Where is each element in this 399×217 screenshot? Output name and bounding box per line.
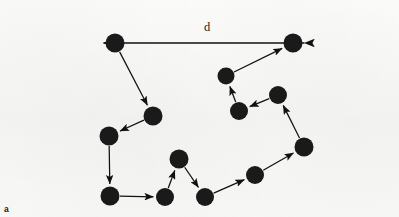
edge-n5-to-n4 bbox=[250, 99, 269, 107]
edge-n11-to-n10 bbox=[120, 196, 153, 197]
node-n13 bbox=[144, 107, 163, 126]
edge-n8-to-n7 bbox=[214, 180, 245, 194]
edge-n9-to-n8 bbox=[185, 167, 199, 187]
edge-n6-to-n5 bbox=[283, 105, 299, 138]
edge-n4-to-n3 bbox=[230, 86, 236, 102]
node-n9 bbox=[170, 150, 189, 169]
distance-label-d: d bbox=[204, 21, 210, 34]
node-n8 bbox=[196, 188, 214, 206]
node-n5 bbox=[269, 86, 287, 104]
node-n2 bbox=[284, 34, 303, 53]
levy-flight-diagram bbox=[0, 0, 399, 217]
node-n10 bbox=[156, 188, 174, 206]
node-n7 bbox=[246, 166, 264, 184]
nodes-layer bbox=[100, 34, 314, 207]
figure-panel: d a bbox=[0, 0, 399, 217]
edge-n3-to-n2 bbox=[234, 48, 282, 72]
node-n1 bbox=[106, 34, 125, 53]
edges-layer bbox=[109, 48, 299, 196]
edge-n10-to-n9 bbox=[168, 170, 175, 188]
panel-label-a: a bbox=[4, 205, 9, 214]
node-n11 bbox=[101, 187, 120, 206]
edge-n7-to-n6 bbox=[263, 153, 293, 170]
edge-n12-to-n11 bbox=[109, 146, 110, 184]
node-n12 bbox=[100, 127, 119, 146]
node-n6 bbox=[295, 138, 314, 157]
edge-n13-to-n12 bbox=[120, 120, 144, 131]
node-n3 bbox=[218, 68, 235, 85]
edge-n1-to-n13 bbox=[120, 52, 148, 105]
node-n4 bbox=[230, 102, 248, 120]
